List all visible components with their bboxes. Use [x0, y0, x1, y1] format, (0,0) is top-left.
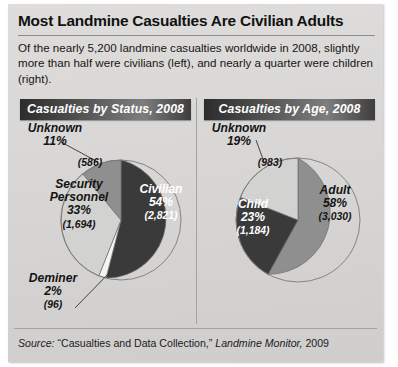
pie-label-unknown-status: Unknown 11%	[19, 122, 91, 148]
subtitle-text: Of the nearly 5,200 landmine casualties …	[18, 40, 378, 86]
chart-right-title-bar: Casualties by Age, 2008	[204, 99, 375, 120]
source-label: Source:	[18, 337, 55, 349]
chart-casualties-by-age: Casualties by Age, 2008 Adult 58%	[198, 98, 379, 323]
chart-left-title-bar: Casualties by Status, 2008	[20, 99, 191, 120]
pie-count-unknown-status: (586)	[66, 156, 114, 169]
pie-label-security-personnel: Security Personnel 33% (1,694)	[40, 178, 118, 231]
figure-panel: Most Landmine Casualties Are Civilian Ad…	[8, 4, 383, 362]
pie-label-child: Child 23% (1,184)	[218, 198, 288, 238]
chart-left-title: Casualties by Status, 2008	[20, 99, 191, 120]
headline-divider	[18, 35, 375, 36]
charts-divider	[196, 98, 197, 324]
chart-casualties-by-status: Casualties by Status, 2008	[14, 98, 195, 323]
pie-left-wrap: Civilian 54% (2,821) Security Personnel …	[14, 120, 195, 323]
pie-label-civilian: Civilian 54% (2,821)	[128, 183, 194, 223]
infographic-figure: Most Landmine Casualties Are Civilian Ad…	[0, 0, 398, 367]
source-year: 2009	[305, 337, 329, 349]
pie-right-wrap: Adult 58% (3,030) Child 23% (1,184) Unkn…	[198, 120, 379, 323]
source-divider	[14, 328, 377, 329]
source-publication: Landmine Monitor,	[215, 337, 302, 349]
page-title: Most Landmine Casualties Are Civilian Ad…	[18, 12, 378, 30]
pie-label-adult: Adult 58% (3,030)	[302, 184, 368, 224]
source-article: “Casualties and Data Collection,”	[57, 337, 212, 349]
pie-label-deminer: Deminer 2% (96)	[20, 272, 86, 312]
source-note: Source: “Casualties and Data Collection,…	[18, 337, 329, 349]
pie-count-unknown-age: (983)	[246, 156, 294, 169]
pie-label-unknown-age: Unknown 19%	[201, 122, 277, 148]
chart-right-title: Casualties by Age, 2008	[204, 99, 375, 120]
